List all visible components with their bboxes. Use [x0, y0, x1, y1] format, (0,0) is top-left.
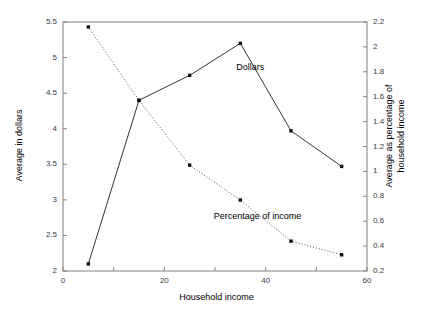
y-tick-label-right: 1.4 [373, 117, 403, 126]
x-tick-label: 40 [251, 276, 281, 285]
chart-plot-area [0, 0, 433, 313]
y-tick-label-left: 2 [27, 266, 57, 275]
x-tick-label: 20 [149, 276, 179, 285]
y-tick-label-right: 1 [373, 166, 403, 175]
y-axis-label-left: Average in dollars [14, 81, 25, 211]
x-tick-label: 60 [352, 276, 382, 285]
y-tick-label-left: 3 [27, 195, 57, 204]
series-annotation: Dollars [236, 62, 264, 73]
x-axis-label: Household income [0, 292, 433, 302]
y-tick-label-left: 2.5 [27, 230, 57, 239]
chart-series [87, 25, 344, 265]
series-annotation: Percentage of income [212, 211, 302, 222]
y-tick-label-left: 5 [27, 53, 57, 62]
x-tick-label: 0 [48, 276, 78, 285]
y-tick-label-left: 5.5 [27, 17, 57, 26]
y-tick-label-left: 3.5 [27, 159, 57, 168]
y-tick-label-left: 4 [27, 124, 57, 133]
y-tick-label-left: 4.5 [27, 88, 57, 97]
y-tick-label-right: 1.2 [373, 142, 403, 151]
chart-figure: Average in dollars Average as percentage… [0, 0, 433, 313]
y-tick-label-right: 0.4 [373, 241, 403, 250]
y-tick-label-right: 2 [373, 42, 403, 51]
y-tick-label-right: 2.2 [373, 17, 403, 26]
y-tick-label-right: 0.6 [373, 216, 403, 225]
y-tick-label-right: 0.2 [373, 266, 403, 275]
y-tick-label-right: 1.6 [373, 92, 403, 101]
y-axis-label-right: Average as percentage of household incom… [383, 71, 407, 201]
y-tick-label-right: 0.8 [373, 191, 403, 200]
y-tick-label-right: 1.8 [373, 67, 403, 76]
